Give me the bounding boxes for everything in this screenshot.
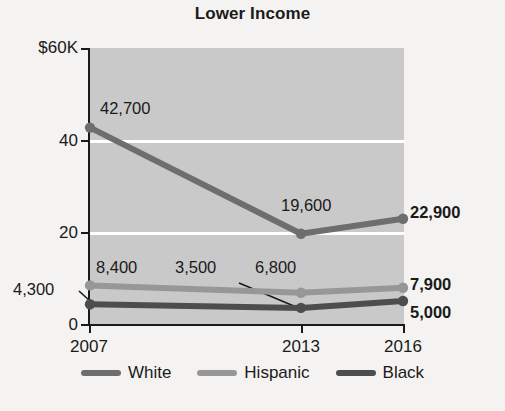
data-point-white-2016 (398, 214, 408, 224)
data-point-hispanic-2007 (85, 280, 95, 290)
data-point-black-2016 (398, 296, 408, 306)
legend-swatch-white (81, 370, 121, 376)
data-label-white-2007: 42,700 (100, 99, 150, 118)
data-label-hispanic-2016: 7,900 (410, 275, 451, 294)
data-label-black-2007: 4,300 (13, 280, 54, 299)
legend-item-hispanic[interactable]: Hispanic (197, 363, 309, 383)
data-label-black-2013: 3,500 (175, 258, 216, 277)
series-line-white (90, 128, 403, 234)
data-label-white-2013: 19,600 (281, 196, 331, 215)
legend-swatch-black (336, 370, 376, 376)
series-line-black (90, 301, 403, 308)
legend-swatch-hispanic (197, 370, 237, 376)
data-point-black-2013 (296, 303, 306, 313)
data-label-hispanic-2007: 8,400 (96, 258, 137, 277)
chart-container: Lower Income $60K 40 20 0 2007 2013 2016… (0, 0, 505, 411)
legend-item-white[interactable]: White (81, 363, 171, 383)
data-point-hispanic-2013 (296, 288, 306, 298)
data-point-black-2007 (85, 299, 95, 309)
legend-item-black[interactable]: Black (336, 363, 425, 383)
data-point-white-2007 (85, 122, 95, 132)
data-point-white-2013 (296, 229, 306, 239)
legend-label-white: White (128, 363, 171, 383)
data-label-white-2016: 22,900 (410, 203, 460, 222)
legend-label-black: Black (383, 363, 425, 383)
legend-label-hispanic: Hispanic (244, 363, 309, 383)
data-label-hispanic-2013: 6,800 (255, 258, 296, 277)
data-label-black-2016: 5,000 (410, 303, 451, 322)
chart-legend: White Hispanic Black (0, 363, 505, 383)
data-point-hispanic-2016 (398, 283, 408, 293)
